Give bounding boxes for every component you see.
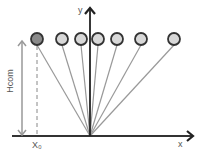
pendulum-lines (37, 45, 174, 136)
mass-circle (111, 33, 123, 45)
pendulum-line (90, 45, 141, 136)
mass-circle (75, 33, 87, 45)
mass-circle (92, 33, 104, 45)
highlighted-mass-circle (31, 33, 43, 45)
mass-circle (168, 33, 180, 45)
mass-circle (135, 33, 147, 45)
mass-circles (31, 33, 180, 45)
mass-circle (56, 33, 68, 45)
diagram-canvas (0, 0, 203, 154)
pendulum-line (90, 45, 174, 136)
y-axis-label: y (78, 5, 83, 15)
x-axis-label: x (178, 139, 183, 149)
hcom-label: Hcom (5, 69, 15, 93)
x0-label: X₀ (32, 140, 42, 150)
